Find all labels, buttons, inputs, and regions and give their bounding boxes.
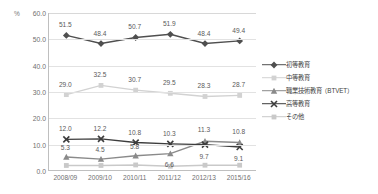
data-point-marker-square: [203, 163, 208, 168]
y-axis-tick-label: 50.0: [2, 36, 46, 43]
series-line: [66, 139, 239, 147]
gridline: [49, 92, 256, 93]
y-axis-tick-labels: 0.010.020.030.040.050.060.0: [0, 13, 46, 171]
data-label: 50.7: [128, 23, 141, 30]
x-axis-tick-label: 2015/16: [227, 174, 251, 181]
series-triangle: [63, 138, 243, 162]
series-square: [64, 83, 242, 99]
x-axis-tick-label: 2012/13: [192, 174, 216, 181]
x-axis-tick-label: 2011/12: [158, 174, 181, 181]
data-point-marker-square: [272, 75, 277, 80]
gridline: [49, 145, 256, 146]
legend-label: 中等教育: [286, 73, 310, 82]
data-label: 4.5: [95, 146, 104, 153]
data-point-marker-square: [99, 83, 104, 88]
data-point-marker-cross: [271, 101, 277, 107]
legend-item[interactable]: 中等教育: [262, 71, 376, 84]
y-axis-tick-label: 30.0: [2, 89, 46, 96]
legend-item[interactable]: 高等教育: [262, 97, 376, 110]
legend-marker-square-icon: [262, 111, 286, 122]
y-axis-tick-label: 20.0: [2, 115, 46, 122]
data-label: 11.3: [198, 126, 210, 133]
chart-legend: 初等教育中等教育職業技術教育（BTVET）高等教育その他: [262, 58, 376, 123]
x-axis-tick-labels: 2008/092009/102010/112011/122012/132015/…: [48, 174, 256, 188]
data-label: 49.4: [232, 26, 245, 33]
data-label: 51.9: [163, 20, 176, 27]
series-line: [66, 85, 239, 96]
data-point-marker-square: [99, 163, 104, 168]
legend-item[interactable]: その他: [262, 110, 376, 123]
data-label: 30.7: [128, 76, 141, 83]
data-label: 51.5: [59, 21, 72, 28]
gridline: [49, 39, 256, 40]
data-label: 5.8: [130, 142, 139, 149]
data-point-marker-diamond: [271, 61, 278, 68]
data-label: 12.2: [94, 124, 107, 131]
plot-area: [48, 13, 256, 171]
legend-marker-triangle-icon: [262, 85, 286, 96]
x-axis-tick-label: 2009/10: [88, 174, 112, 181]
legend-label: 高等教育: [286, 99, 310, 108]
data-point-marker-square: [237, 93, 242, 98]
gridline: [49, 13, 256, 14]
data-point-marker-diamond: [63, 32, 70, 39]
data-label: 9.1: [234, 155, 243, 162]
data-label: 29.0: [59, 80, 72, 87]
data-point-marker-square: [133, 163, 138, 168]
data-point-marker-diamond: [202, 40, 209, 47]
data-label: 48.4: [94, 29, 107, 36]
legend-item[interactable]: 職業技術教育（BTVET）: [262, 84, 376, 97]
data-label: 28.3: [198, 82, 211, 89]
gridline: [49, 118, 256, 119]
data-label: 12.0: [59, 125, 72, 132]
legend-marker-square-icon: [262, 72, 286, 83]
data-point-marker-diamond: [98, 40, 105, 47]
data-point-marker-square: [237, 163, 242, 168]
legend-marker-cross-icon: [262, 98, 286, 109]
data-label: 6.6: [165, 160, 174, 167]
data-label: 9.7: [199, 152, 208, 159]
x-axis-tick-label: 2008/09: [53, 174, 77, 181]
x-axis-tick-label: 2010/11: [123, 174, 146, 181]
data-point-marker-square: [272, 114, 277, 119]
series-line: [66, 165, 239, 166]
data-label: 10.8: [232, 127, 245, 134]
data-point-marker-square: [64, 163, 69, 168]
y-axis-tick-label: 0.0: [2, 168, 46, 175]
data-label: 28.7: [232, 81, 245, 88]
series-cross: [63, 136, 242, 150]
data-label: 29.5: [163, 79, 176, 86]
data-point-marker-square: [203, 94, 208, 99]
data-point-marker-diamond: [167, 31, 174, 38]
gridline: [49, 66, 256, 67]
legend-label: 初等教育: [286, 60, 310, 69]
data-label: 5.3: [61, 144, 70, 151]
data-label: 32.5: [94, 71, 107, 78]
data-label: 48.4: [198, 29, 211, 36]
legend-marker-diamond-icon: [262, 59, 286, 70]
legend-label: その他: [286, 112, 304, 121]
legend-item[interactable]: 初等教育: [262, 58, 376, 71]
y-axis-tick-label: 10.0: [2, 141, 46, 148]
data-label: 10.8: [128, 128, 141, 135]
line-chart: % 0.010.020.030.040.050.060.0 2008/09200…: [0, 0, 378, 194]
data-label: 10.3: [163, 129, 176, 136]
data-point-marker-triangle: [271, 87, 277, 93]
y-axis-tick-label: 60.0: [2, 10, 46, 17]
series-square: [64, 163, 242, 169]
legend-label: 職業技術教育（BTVET）: [286, 86, 353, 95]
y-axis-tick-label: 40.0: [2, 62, 46, 69]
